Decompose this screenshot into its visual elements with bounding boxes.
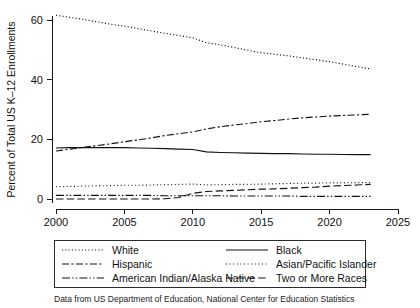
legend-entry: American Indian/Alaska Native <box>55 271 219 285</box>
legend: WhiteBlackHispanicAsian/Pacific Islander… <box>54 240 366 288</box>
legend-entry: Black <box>219 243 367 257</box>
plot-area: 2000200520102015202020250204060YearPerce… <box>0 0 420 232</box>
y-tick-label: 40 <box>31 74 43 86</box>
x-tick-label: 2010 <box>181 216 205 228</box>
legend-entry: Two or More Races <box>219 271 367 285</box>
source-caption: Data from US Department of Education, Na… <box>54 294 354 304</box>
legend-key-dash-dot-dot-icon <box>61 273 105 283</box>
series-layer <box>56 15 371 199</box>
y-tick-label: 0 <box>37 193 43 205</box>
legend-label: Asian/Pacific Islander <box>276 258 376 270</box>
y-tick-label: 20 <box>31 133 43 145</box>
legend-key-dash-dot-icon <box>61 259 105 269</box>
legend-entry: Hispanic <box>55 257 219 271</box>
legend-key-fine-dotted-icon <box>225 259 269 269</box>
chart-figure: 2000200520102015202020250204060YearPerce… <box>0 0 420 308</box>
series-line-white <box>56 15 371 69</box>
legend-key-solid-icon <box>225 245 269 255</box>
series-line-american-indian-alaska-native <box>56 195 371 196</box>
y-axis-title: Percent of Total US K–12 Enrollments <box>5 21 17 197</box>
legend-label: Black <box>276 244 302 256</box>
legend-entry: Asian/Pacific Islander <box>219 257 367 271</box>
x-axis-title: Year <box>216 231 238 232</box>
legend-key-dotted-icon <box>61 245 105 255</box>
legend-label: Two or More Races <box>276 272 367 284</box>
y-tick-label: 60 <box>31 14 43 26</box>
x-tick-label: 2000 <box>44 216 68 228</box>
series-line-black <box>56 148 371 155</box>
legend-entry: White <box>55 243 219 257</box>
x-tick-label: 2015 <box>249 216 273 228</box>
x-tick-label: 2005 <box>112 216 136 228</box>
series-line-hispanic <box>56 114 371 151</box>
legend-label: Hispanic <box>112 258 152 270</box>
legend-label: White <box>112 244 139 256</box>
legend-key-long-dash-icon <box>225 273 269 283</box>
axis-text-layer: 2000200520102015202020250204060YearPerce… <box>5 14 410 232</box>
x-tick-label: 2025 <box>386 216 410 228</box>
x-tick-label: 2020 <box>317 216 341 228</box>
legend-grid: WhiteBlackHispanicAsian/Pacific Islander… <box>55 241 365 287</box>
plot-svg: 2000200520102015202020250204060YearPerce… <box>0 0 420 232</box>
